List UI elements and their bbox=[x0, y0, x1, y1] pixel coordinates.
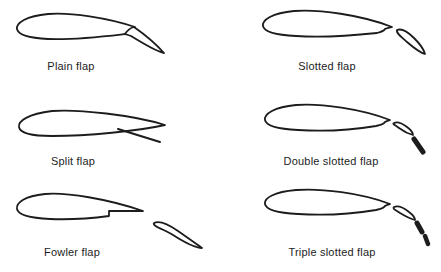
slotted-flap-airfoil-icon bbox=[250, 6, 435, 62]
fowler-flap-airfoil-icon bbox=[8, 190, 213, 254]
plain-flap-airfoil-icon bbox=[8, 6, 178, 62]
fowler-flap-label: Fowler flap bbox=[44, 246, 100, 258]
triple-slotted-flap-label: Triple slotted flap bbox=[288, 246, 375, 258]
flap-types-diagram: Plain flap Slotted flap Split flap Doubl… bbox=[0, 0, 441, 272]
triple-slotted-flap-airfoil-icon bbox=[250, 188, 435, 250]
double-slotted-flap-label: Double slotted flap bbox=[284, 155, 379, 167]
split-flap-label: Split flap bbox=[51, 155, 95, 167]
plain-flap-label: Plain flap bbox=[47, 60, 94, 72]
double-slotted-flap-airfoil-icon bbox=[250, 102, 435, 160]
slotted-flap-label: Slotted flap bbox=[298, 60, 355, 72]
split-flap-airfoil-icon bbox=[8, 108, 178, 154]
